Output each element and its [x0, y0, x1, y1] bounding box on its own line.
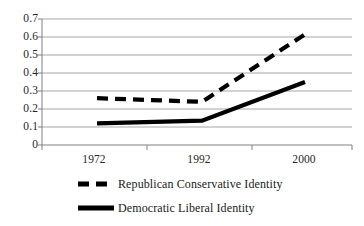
y-axis-tick-label: 0.2 — [10, 103, 38, 115]
x-axis-labels: 197219922000 — [0, 150, 364, 170]
x-axis-tick-label: 2000 — [274, 154, 334, 166]
legend-label-republican: Republican Conservative Identity — [118, 177, 283, 192]
y-axis-tick-label: 0 — [10, 139, 38, 151]
y-axis-tick-label: 0.4 — [10, 67, 38, 79]
line-chart: 0.70.60.50.40.30.20.10 197219922000 Repu… — [0, 0, 364, 226]
y-axis-tick-label: 0.3 — [10, 85, 38, 97]
chart-legend: Republican Conservative Identity Democra… — [0, 172, 364, 220]
legend-swatch-solid-icon — [78, 201, 114, 215]
y-axis-tick-label: 0.6 — [10, 31, 38, 43]
x-axis-tick-label: 1992 — [169, 154, 229, 166]
legend-item-republican: Republican Conservative Identity — [0, 172, 364, 196]
y-axis-labels: 0.70.60.50.40.30.20.10 — [5, 0, 38, 160]
plot-area: 0.70.60.50.40.30.20.10 — [0, 0, 364, 160]
gridlines — [42, 19, 352, 127]
legend-label-democratic: Democratic Liberal Identity — [118, 201, 255, 216]
y-axis-tick-label: 0.1 — [10, 121, 38, 133]
legend-swatch-dashed-icon — [78, 177, 114, 191]
legend-item-democratic: Democratic Liberal Identity — [0, 196, 364, 220]
y-axis-tick-label: 0.5 — [10, 49, 38, 61]
y-axis-tick-label: 0.7 — [10, 13, 38, 25]
plot-svg — [0, 0, 364, 160]
series-line-democratic-liberal-identity — [97, 82, 305, 123]
x-axis-tick-label: 1972 — [64, 154, 124, 166]
y-axis-ticks — [38, 19, 42, 145]
